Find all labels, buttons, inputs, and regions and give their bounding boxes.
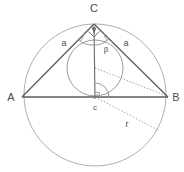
center-label: c xyxy=(93,103,97,112)
side-label-a-left: a xyxy=(61,38,66,48)
side-label-a-right: a xyxy=(123,38,128,48)
radius-label: r xyxy=(126,119,129,129)
angle-label-beta: β xyxy=(104,45,109,54)
vertex-label-c: C xyxy=(90,2,98,14)
right-angle-dot-c xyxy=(93,30,95,32)
vertex-label-a: A xyxy=(7,91,15,103)
geometry-diagram: C A B a a β c r xyxy=(0,0,184,172)
right-angle-dot-center xyxy=(97,94,98,95)
geometry-canvas: C A B a a β c r xyxy=(0,0,184,172)
median-center-to-b xyxy=(95,68,167,96)
vertex-label-b: B xyxy=(172,91,179,103)
